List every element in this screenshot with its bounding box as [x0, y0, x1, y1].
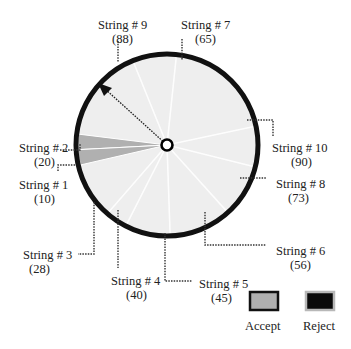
legend: Accept Reject — [245, 292, 335, 333]
value-string-2: (20) — [34, 155, 55, 169]
value-string-3: (28) — [29, 262, 50, 276]
label-string-4: String # 4 — [111, 274, 161, 288]
legend-reject-swatch — [306, 292, 334, 310]
hub-icon — [162, 140, 173, 151]
leader-string-5 — [165, 233, 192, 281]
label-string-6: String # 6 — [276, 244, 325, 258]
value-string-4: (40) — [126, 288, 147, 302]
label-string-8: String # 8 — [276, 177, 325, 191]
label-string-5: String # 5 — [199, 277, 248, 291]
label-string-1: String # 1 — [19, 178, 68, 192]
wheel-diagram: String # 9 (88) String # 7 (65) String #… — [0, 0, 351, 349]
label-string-9: String # 9 — [98, 18, 147, 32]
label-string-3: String # 3 — [23, 248, 72, 262]
label-string-2: String # 2 — [19, 141, 68, 155]
label-string-10: String # 10 — [272, 141, 328, 155]
legend-accept-swatch — [250, 292, 278, 310]
legend-reject-label: Reject — [303, 319, 335, 333]
leader-string-1 — [58, 165, 76, 171]
value-string-8: (73) — [288, 191, 309, 205]
value-string-10: (90) — [291, 155, 312, 169]
value-string-1: (10) — [34, 192, 55, 206]
value-string-9: (88) — [112, 32, 133, 46]
legend-accept-label: Accept — [245, 319, 281, 333]
value-string-6: (56) — [290, 258, 311, 272]
value-string-7: (65) — [195, 32, 216, 46]
leader-string-3 — [78, 202, 94, 254]
value-string-5: (45) — [211, 291, 232, 305]
label-string-7: String # 7 — [181, 18, 230, 32]
